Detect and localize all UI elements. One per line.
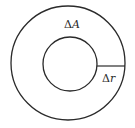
inner-circle xyxy=(43,37,97,91)
annulus-diagram: ΔA Δr xyxy=(0,0,135,128)
delta-r-label: Δr xyxy=(102,72,116,85)
area-label: ΔA xyxy=(64,18,80,31)
